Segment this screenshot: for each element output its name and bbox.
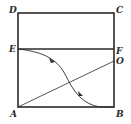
diagram-canvas: [0, 0, 131, 124]
label-point-f: F: [116, 47, 122, 56]
geometry-diagram: D C E F O A B: [0, 0, 131, 124]
label-point-e: E: [9, 45, 16, 54]
label-point-d: D: [9, 6, 17, 15]
rectangle-abcd: [18, 13, 114, 107]
label-point-c: C: [116, 6, 123, 15]
segment-ao: [18, 61, 114, 107]
label-point-a: A: [10, 110, 17, 119]
label-point-o: O: [116, 57, 124, 66]
curve-e-to-b: [18, 49, 114, 107]
label-point-b: B: [116, 110, 124, 119]
